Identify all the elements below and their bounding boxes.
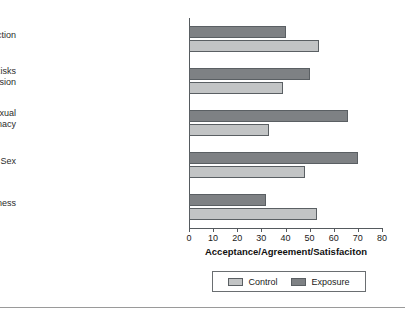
- bar-exposure: [189, 194, 266, 206]
- category-label-line: Importance of Faithfulness: [0, 198, 16, 209]
- category-label: Acceptance of Premarital Sex: [0, 156, 16, 167]
- x-axis-tick-label: 30: [256, 233, 266, 243]
- legend-item-exposure: Exposure: [291, 277, 349, 287]
- x-axis-tick-label: 50: [305, 233, 315, 243]
- legend-swatch-exposure: [291, 278, 306, 286]
- bar-chart-figure: Sexual SatisfactionAcceptance of Myth of…: [0, 0, 405, 317]
- bar-group: [189, 190, 382, 232]
- x-axis-tick: [213, 228, 214, 232]
- plot-area: [189, 18, 382, 228]
- clipped-header-text: [186, 0, 401, 6]
- x-axis-tick: [382, 228, 383, 232]
- chart-legend: Control Exposure: [212, 271, 366, 292]
- legend-swatch-control: [228, 278, 243, 286]
- x-axis-tick: [261, 228, 262, 232]
- bar-group: [189, 106, 382, 148]
- x-axis-tick-label: 10: [208, 233, 218, 243]
- x-axis-tick: [189, 228, 190, 232]
- x-axis-tick-label: 20: [232, 233, 242, 243]
- x-axis-tick-label: 70: [353, 233, 363, 243]
- category-label-line: Acceptance of Nonexclusive Sexual: [0, 108, 16, 119]
- bar-group: [189, 64, 382, 106]
- bar-control: [189, 82, 283, 94]
- bar-exposure: [189, 68, 310, 80]
- category-label: Acceptance of Myth of Health Risksfrom S…: [0, 66, 16, 88]
- legend-label-exposure: Exposure: [311, 277, 349, 287]
- category-label: Acceptance of Nonexclusive SexualIntimac…: [0, 108, 16, 130]
- x-axis-tick-label: 60: [329, 233, 339, 243]
- category-label: Importance of Faithfulness: [0, 198, 16, 209]
- category-label-line: from Sexual Repression: [0, 77, 16, 88]
- x-axis-tick: [358, 228, 359, 232]
- category-label-line: Acceptance of Premarital Sex: [0, 156, 16, 167]
- bar-exposure: [189, 110, 348, 122]
- bar-control: [189, 208, 317, 220]
- bottom-divider: [0, 307, 405, 308]
- x-axis-tick-label: 80: [377, 233, 387, 243]
- bar-exposure: [189, 152, 358, 164]
- bar-control: [189, 166, 305, 178]
- legend-label-control: Control: [248, 277, 277, 287]
- x-axis-tick-label: 40: [280, 233, 290, 243]
- category-label-line: Intimacy: [0, 119, 16, 130]
- x-axis-tick: [237, 228, 238, 232]
- bar-group: [189, 148, 382, 190]
- x-axis-tick: [334, 228, 335, 232]
- bar-exposure: [189, 26, 286, 38]
- bar-control: [189, 124, 269, 136]
- category-label-line: Sexual Satisfaction: [0, 30, 16, 41]
- bar-control: [189, 40, 319, 52]
- category-label-line: Acceptance of Myth of Health Risks: [0, 66, 16, 77]
- x-axis-tick: [286, 228, 287, 232]
- legend-item-control: Control: [228, 277, 277, 287]
- x-axis-tick: [310, 228, 311, 232]
- bar-group: [189, 22, 382, 64]
- x-axis-title: Acceptance/Agreement/Satisfaciton: [189, 246, 383, 257]
- x-axis-tick-label: 0: [186, 233, 191, 243]
- category-label: Sexual Satisfaction: [0, 30, 16, 41]
